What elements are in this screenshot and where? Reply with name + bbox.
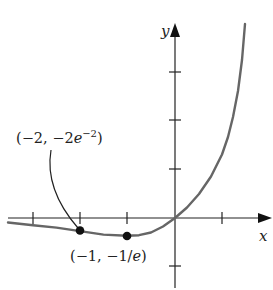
minimum-point-marker xyxy=(123,232,132,241)
y-axis-arrow-icon xyxy=(170,23,180,37)
minimum-point-label: (−1, −1/e) xyxy=(70,248,147,264)
inflection-point-marker xyxy=(76,226,85,235)
x-axis-label: x xyxy=(259,227,268,245)
inflection-point-label: (−2, −2e−2) xyxy=(16,128,103,146)
graph-x-exp-x: y x (−2, −2e−2) (−1, −1/e) xyxy=(0,0,273,290)
y-axis-label: y xyxy=(160,22,170,40)
x-axis-arrow-icon xyxy=(258,213,272,223)
leader-line xyxy=(50,150,78,228)
y-axis xyxy=(169,23,181,288)
x-axis xyxy=(8,212,272,224)
